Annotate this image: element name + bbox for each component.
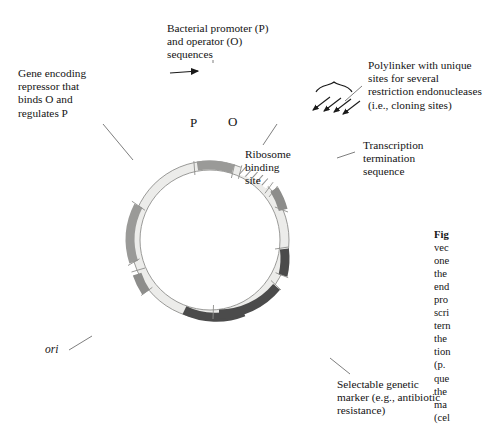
figure-caption: Fig vec one the end pro scri tern the ti… xyxy=(434,228,499,424)
label-promoter-operator: Bacterial promoter (P) and operator (O) … xyxy=(167,22,269,62)
label-line: binds O and xyxy=(18,93,86,106)
leader-repressor-gene xyxy=(103,124,133,160)
polylinker-brace-arrows xyxy=(313,82,360,114)
caption-line: tion xyxy=(434,345,499,358)
caption-line: vec xyxy=(434,241,499,254)
label-line: termination xyxy=(363,152,423,165)
figure-canvas: Bacterial promoter (P) and operator (O) … xyxy=(0,0,499,434)
leader-ori xyxy=(69,336,92,350)
label-line: sites for several xyxy=(368,72,482,85)
label-line: Polylinker with unique xyxy=(368,59,482,72)
label-line: restriction endonucleases xyxy=(368,85,482,98)
caption-line: end xyxy=(434,280,499,293)
label-line: Gene encoding xyxy=(18,67,86,80)
segment-promoter xyxy=(197,165,233,169)
segment-transcription-termination xyxy=(283,249,285,276)
caption-line: scri xyxy=(434,306,499,319)
caption-line: (p. xyxy=(434,358,499,371)
caption-line: the xyxy=(434,267,499,280)
label-line: sequences xyxy=(167,48,269,61)
label-line: Bacterial promoter (P) xyxy=(167,22,269,35)
transcription-direction-arrow xyxy=(170,71,198,73)
caption-line: que xyxy=(434,372,499,385)
leader-lines xyxy=(69,60,362,374)
leader-polylinker xyxy=(345,86,362,101)
caption-line: pro xyxy=(434,293,499,306)
ring-label-operator: O xyxy=(228,114,237,130)
label-selectable-marker: Selectable genetic marker (e.g., antibio… xyxy=(337,378,440,418)
caption-line: ma xyxy=(434,398,499,411)
label-repressor-gene: Gene encoding repressor that binds O and… xyxy=(18,67,86,120)
label-ribosome-binding-site: Ribosome binding site xyxy=(245,148,291,188)
label-transcription-termination: Transcription termination sequence xyxy=(363,139,423,179)
label-line: sequence xyxy=(363,165,423,178)
label-line: (i.e., cloning sites) xyxy=(368,99,482,112)
label-line: repressor that xyxy=(18,80,86,93)
label-line: binding xyxy=(245,161,291,174)
label-line: regulates P xyxy=(18,107,86,120)
label-line: Selectable genetic xyxy=(337,378,440,391)
label-line: marker (e.g., antibiotic xyxy=(337,391,440,404)
caption-line: Fig xyxy=(434,228,499,241)
leader-ribosome xyxy=(263,124,277,145)
caption-line: one xyxy=(434,254,499,267)
leader-selectable-marker xyxy=(330,358,350,374)
label-line: resistance) xyxy=(337,404,440,417)
label-line: Ribosome xyxy=(245,148,291,161)
caption-line: (cel xyxy=(434,411,499,424)
caption-line: the xyxy=(434,385,499,398)
label-polylinker: Polylinker with unique sites for several… xyxy=(368,59,482,112)
caption-line: the xyxy=(434,332,499,345)
leader-termination xyxy=(337,152,355,158)
caption-line: tern xyxy=(434,319,499,332)
ring-label-promoter: P xyxy=(190,115,197,131)
label-line: Transcription xyxy=(363,139,423,152)
ring-label-ori: ori xyxy=(45,343,58,355)
label-line: and operator (O) xyxy=(167,35,269,48)
label-line: site xyxy=(245,174,291,187)
